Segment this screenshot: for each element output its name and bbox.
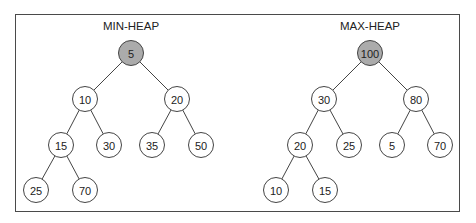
min-heap-title: MIN-HEAP — [103, 20, 160, 32]
min-heap-tree: MIN-HEAP 51020153035502570 — [24, 20, 214, 203]
tree-edge — [398, 110, 410, 134]
tree-edge — [282, 156, 294, 179]
heap-diagram: MIN-HEAP 51020153035502570 MAX-HEAP 1003… — [0, 0, 476, 223]
tree-edge — [91, 110, 103, 134]
node-label: 80 — [410, 94, 422, 106]
heap-node: 20 — [288, 133, 313, 158]
node-label: 15 — [319, 185, 331, 197]
heap-node: 30 — [312, 87, 337, 112]
tree-edge — [67, 156, 79, 179]
node-label: 70 — [434, 140, 446, 152]
node-label: 15 — [55, 140, 67, 152]
node-label: 10 — [79, 94, 91, 106]
node-label: 70 — [79, 185, 91, 197]
heap-root-node: 5 — [119, 41, 144, 66]
max-heap-tree: MAX-HEAP 100308020255701015 — [264, 20, 453, 203]
node-label: 5 — [389, 140, 395, 152]
node-label: 50 — [195, 140, 207, 152]
heap-node: 10 — [264, 178, 289, 203]
tree-edge — [140, 62, 168, 90]
heap-node: 15 — [313, 178, 338, 203]
heap-node: 15 — [49, 133, 74, 158]
node-label: 5 — [128, 48, 134, 60]
tree-edge — [422, 110, 434, 134]
heap-node: 25 — [337, 133, 362, 158]
heap-node: 25 — [24, 178, 49, 203]
tree-edge — [158, 110, 171, 134]
node-label: 30 — [103, 140, 115, 152]
tree-edge — [67, 110, 79, 134]
tree-edge — [94, 62, 122, 90]
heap-root-node: 100 — [358, 41, 383, 66]
heap-node: 50 — [189, 133, 214, 158]
node-label: 10 — [270, 185, 282, 197]
heap-node: 30 — [97, 133, 122, 158]
tree-edge — [42, 156, 55, 179]
heap-node: 20 — [165, 87, 190, 112]
node-label: 30 — [318, 94, 330, 106]
heap-node: 10 — [73, 87, 98, 112]
node-label: 25 — [30, 185, 42, 197]
tree-edge — [333, 62, 361, 90]
heap-node: 70 — [73, 178, 98, 203]
node-label: 20 — [171, 94, 183, 106]
tree-edge — [306, 110, 318, 134]
heap-node: 80 — [404, 87, 429, 112]
heap-node: 5 — [380, 133, 405, 158]
heap-node: 70 — [428, 133, 453, 158]
node-label: 20 — [294, 140, 306, 152]
node-label: 100 — [361, 48, 379, 60]
node-label: 35 — [146, 140, 158, 152]
tree-edge — [379, 62, 407, 90]
max-heap-title: MAX-HEAP — [340, 20, 400, 32]
node-label: 25 — [343, 140, 355, 152]
tree-edge — [306, 156, 319, 179]
tree-edge — [183, 110, 195, 134]
tree-edge — [330, 110, 343, 134]
heap-node: 35 — [140, 133, 165, 158]
